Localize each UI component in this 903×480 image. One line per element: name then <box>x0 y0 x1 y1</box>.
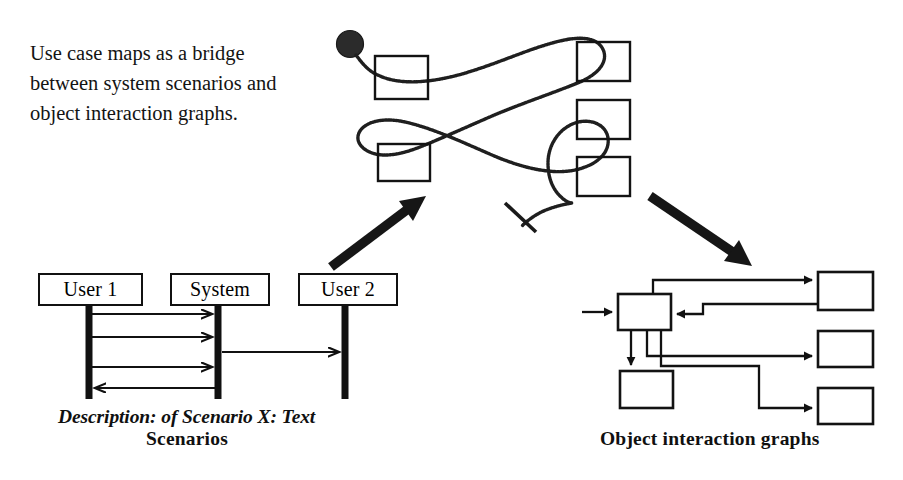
use-case-box-5 <box>378 144 430 181</box>
actor-box-system: System <box>170 273 270 306</box>
scenario-description-label: Description: of Scenario X: Text <box>58 406 315 428</box>
use-case-box-4 <box>577 157 630 196</box>
actor-label-user-2: User 2 <box>321 278 375 301</box>
bridge-arrow-left <box>331 196 426 267</box>
actor-box-user-2: User 2 <box>298 273 398 306</box>
use-case-path <box>356 38 608 226</box>
use-case-map <box>337 31 631 233</box>
object-box-right-top <box>818 272 873 310</box>
object-edge-to-right-bottom <box>661 330 812 408</box>
bridge-arrows <box>331 196 752 267</box>
object-box-lower <box>620 371 673 408</box>
figure-root: Use case maps as a bridge between system… <box>0 0 903 480</box>
sequence-diagram <box>89 304 345 399</box>
object-edge-to-right-top <box>653 280 812 294</box>
scenarios-section-label: Scenarios <box>146 428 228 450</box>
actor-label-user-1: User 1 <box>64 278 118 301</box>
object-box-right-middle <box>818 331 873 367</box>
actor-label-system: System <box>190 278 250 301</box>
use-case-box-3 <box>577 100 630 139</box>
object-box-central <box>618 294 671 330</box>
bridge-arrow-right <box>650 196 752 266</box>
object-edge-return-to-central <box>677 304 818 314</box>
object-graphs-section-label: Object interaction graphs <box>600 428 819 450</box>
actor-box-user-1: User 1 <box>38 273 143 306</box>
object-interaction-graph <box>582 272 873 424</box>
object-box-right-bottom <box>818 388 873 424</box>
use-case-start-point-icon <box>337 31 364 58</box>
object-edge-to-right-middle <box>647 330 812 356</box>
